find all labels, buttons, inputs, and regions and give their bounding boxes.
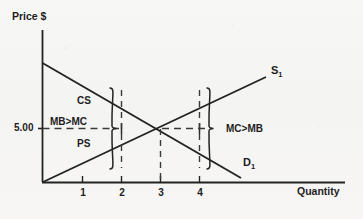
mb-greater-than-mc-label: MB>MC <box>50 117 87 127</box>
x-tick-label-4: 4 <box>195 188 205 198</box>
supply-demand-figure: Price $ Quantity 5.00 1 2 3 4 CS MB>MC P… <box>0 0 363 219</box>
left-brace <box>110 88 117 169</box>
x-tick-label-1: 1 <box>78 188 88 198</box>
right-brace <box>207 88 214 169</box>
x-tick-label-3: 3 <box>156 188 166 198</box>
supply-curve-label-subscript: 1 <box>278 70 282 79</box>
mc-greater-than-mb-label: MC>MB <box>226 124 263 134</box>
consumer-surplus-label: CS <box>77 96 91 106</box>
y-tick-label-5: 5.00 <box>14 123 33 133</box>
producer-surplus-label: PS <box>77 139 90 149</box>
supply-curve-label: S1 <box>271 65 283 79</box>
demand-curve-label-letter: D <box>243 156 251 168</box>
x-tick-label-2: 2 <box>117 188 127 198</box>
demand-curve-label-subscript: 1 <box>251 162 255 171</box>
x-axis-title: Quantity <box>297 186 340 197</box>
demand-curve-label: D1 <box>243 157 255 171</box>
y-axis-title: Price $ <box>12 11 46 22</box>
